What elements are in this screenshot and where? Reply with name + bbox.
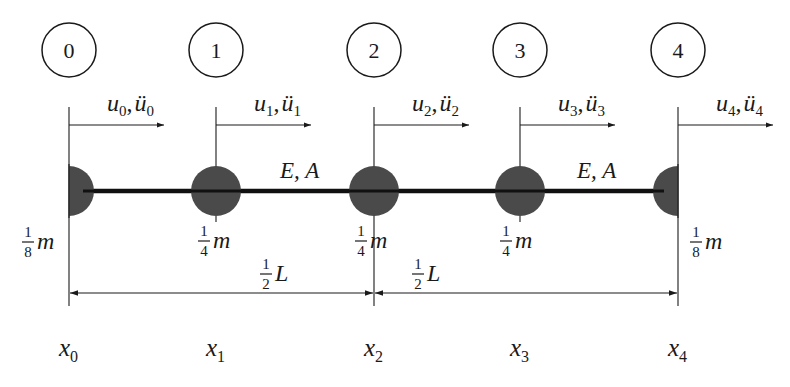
mass-label-3: 14m — [500, 223, 532, 259]
fraction-numerator: 1 — [692, 224, 700, 240]
fraction-numerator: 1 — [262, 256, 270, 272]
dimension-label-0: 12L — [260, 256, 288, 292]
coordinate-label-3: x3 — [509, 334, 529, 365]
node-number-label: 2 — [369, 38, 380, 63]
fraction-denominator: 8 — [692, 244, 700, 260]
node-number-label: 4 — [673, 38, 684, 63]
fraction-numerator: 1 — [24, 224, 32, 240]
fraction-denominator: 4 — [357, 243, 365, 259]
displacement-label: u0,ü0 — [107, 90, 154, 119]
fraction-denominator: 2 — [262, 276, 270, 292]
element-property-label: E, A — [279, 158, 320, 183]
fraction-denominator: 2 — [414, 276, 422, 292]
fraction-symbol: L — [426, 260, 440, 286]
displacement-arrow-4: u4,ü4 — [678, 90, 773, 125]
mass-label-4: 18m — [690, 224, 722, 260]
mass-label-2: 14m — [355, 223, 387, 259]
displacement-arrow-2: u2,ü2 — [374, 90, 469, 125]
fraction-symbol: L — [274, 260, 288, 286]
displacement-label: u3,ü3 — [558, 90, 605, 119]
fraction-symbol: m — [370, 227, 387, 253]
displacement-arrow-1: u1,ü1 — [216, 90, 311, 125]
fraction-numerator: 1 — [357, 223, 365, 239]
node-number-0: 0 — [42, 23, 96, 77]
element-property-label: E, A — [576, 158, 617, 183]
displacement-arrow-0: u0,ü0 — [69, 90, 164, 125]
node-number-4: 4 — [651, 23, 705, 77]
fraction-denominator: 4 — [502, 243, 510, 259]
mass-label-0: 18m — [22, 224, 54, 260]
fraction-denominator: 4 — [200, 243, 208, 259]
displacement-label: u1,ü1 — [254, 90, 301, 119]
node-number-label: 1 — [211, 38, 222, 63]
fraction-symbol: m — [515, 227, 532, 253]
lumped-mass-bar-diagram: 01234u0,ü0u1,ü1u2,ü2u3,ü3u4,ü4E, AE, A18… — [0, 0, 790, 387]
mass-label-1: 14m — [198, 223, 230, 259]
fraction-numerator: 1 — [200, 223, 208, 239]
node-number-1: 1 — [189, 23, 243, 77]
node-number-label: 0 — [64, 38, 75, 63]
coordinate-label-4: x4 — [667, 334, 687, 365]
dimension-label-1: 12L — [412, 256, 440, 292]
fraction-symbol: m — [37, 228, 54, 254]
displacement-label: u4,ü4 — [716, 90, 764, 119]
fraction-symbol: m — [705, 228, 722, 254]
fraction-numerator: 1 — [502, 223, 510, 239]
node-number-3: 3 — [493, 23, 547, 77]
fraction-numerator: 1 — [414, 256, 422, 272]
displacement-arrow-3: u3,ü3 — [520, 90, 615, 125]
fraction-symbol: m — [213, 227, 230, 253]
coordinate-label-2: x2 — [363, 334, 383, 365]
node-number-label: 3 — [515, 38, 526, 63]
coordinate-label-1: x1 — [205, 334, 225, 365]
displacement-label: u2,ü2 — [412, 90, 459, 119]
fraction-denominator: 8 — [24, 244, 32, 260]
node-number-2: 2 — [347, 23, 401, 77]
coordinate-label-0: x0 — [58, 334, 78, 365]
